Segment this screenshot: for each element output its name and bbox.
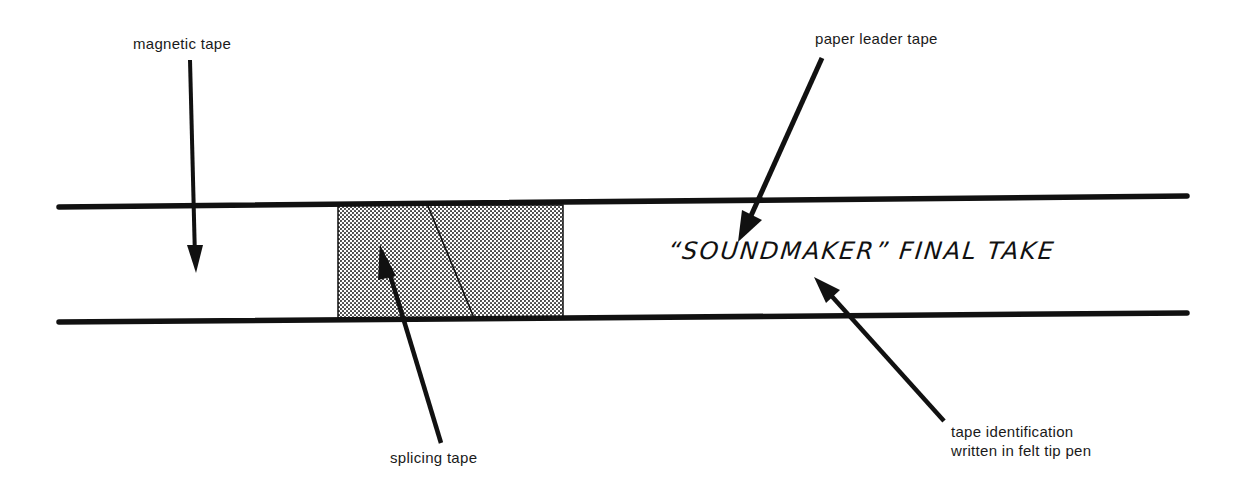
tape-identification-arrow-icon (814, 277, 944, 421)
handwritten-tape-identification: “SOUNDMAKER” FINAL TAKE (667, 237, 1057, 265)
magnetic-tape-arrow-icon (187, 60, 203, 273)
tape-identification-line-2: written in felt tip pen (951, 441, 1091, 460)
splicing-tape-label: splicing tape (390, 448, 477, 467)
paper-leader-tape-label: paper leader tape (815, 29, 938, 48)
paper-leader-arrow-icon (738, 58, 822, 242)
tape-top-edge (59, 196, 1187, 207)
tape-splice-diagram: magnetic tape paper leader tape splicing… (0, 0, 1235, 487)
tape-identification-line-1: tape identification (951, 422, 1091, 441)
tape-identification-label: tape identification written in felt tip … (951, 422, 1091, 460)
splicing-tape-patch (338, 205, 563, 318)
tape-bottom-edge (59, 313, 1187, 322)
magnetic-tape-label: magnetic tape (133, 34, 231, 53)
